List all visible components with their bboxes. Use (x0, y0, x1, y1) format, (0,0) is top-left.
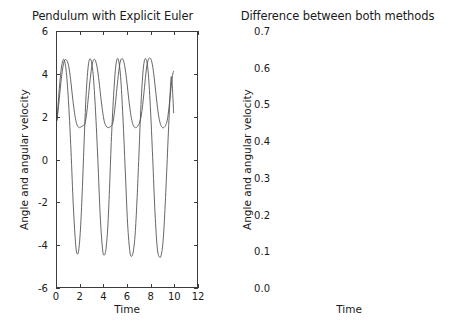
y-tick-6 (56, 31, 60, 32)
y-axis-label-right: Angle and angular velocity (241, 89, 253, 230)
y-tick-2 (56, 202, 60, 203)
x-tick-label-3: 6 (124, 291, 130, 302)
chart-title-left: Pendulum with Explicit Euler (0, 9, 225, 23)
y-tick-label-0: 0.0 (225, 283, 274, 294)
y-tick-5 (194, 74, 198, 75)
x-tick-5 (174, 31, 175, 35)
x-tick-5 (174, 284, 175, 288)
y-tick-label-1: 0.1 (225, 246, 274, 257)
plot-area-left (56, 31, 198, 288)
x-tick-3 (127, 31, 128, 35)
y-tick-0 (194, 288, 198, 289)
y-tick-2 (194, 202, 198, 203)
x-tick-1 (80, 31, 81, 35)
y-tick-label-7: 0.7 (225, 26, 274, 37)
y-tick-label-0: -6 (0, 283, 52, 294)
y-tick-label-6: 6 (0, 26, 52, 37)
x-tick-6 (198, 284, 199, 288)
figure-canvas: Pendulum with Explicit Euler 024681012-6… (0, 0, 450, 334)
y-tick-label-6: 0.6 (225, 62, 274, 73)
x-tick-label-5: 10 (168, 291, 181, 302)
x-tick-3 (127, 284, 128, 288)
y-tick-label-1: -4 (0, 240, 52, 251)
chart-panel-pendulum: Pendulum with Explicit Euler 024681012-6… (0, 0, 225, 334)
x-tick-label-4: 8 (147, 291, 153, 302)
y-tick-label-5: 4 (0, 68, 52, 79)
y-tick-6 (194, 31, 198, 32)
x-tick-label-1: 2 (76, 291, 82, 302)
y-tick-5 (56, 74, 60, 75)
y-tick-0 (56, 288, 60, 289)
x-tick-label-0: 0 (53, 291, 59, 302)
x-axis-label-right: Time (336, 303, 362, 315)
x-tick-4 (151, 31, 152, 35)
x-tick-6 (198, 31, 199, 35)
x-tick-1 (80, 284, 81, 288)
chart-title-right: Difference between both methods (225, 9, 450, 23)
y-tick-4 (194, 117, 198, 118)
chart-panel-difference: Difference between both methods 02468101… (225, 0, 450, 334)
x-tick-4 (151, 284, 152, 288)
plot-lines-left (57, 32, 197, 287)
x-tick-2 (103, 284, 104, 288)
x-tick-label-2: 4 (100, 291, 106, 302)
x-tick-2 (103, 31, 104, 35)
series-line-1 (57, 58, 174, 257)
y-tick-4 (56, 117, 60, 118)
y-tick-3 (56, 160, 60, 161)
y-tick-3 (194, 160, 198, 161)
y-tick-1 (194, 245, 198, 246)
y-axis-label-left: Angle and angular velocity (18, 89, 30, 230)
y-tick-1 (56, 245, 60, 246)
x-axis-label-left: Time (114, 303, 140, 315)
x-tick-label-6: 12 (192, 291, 205, 302)
